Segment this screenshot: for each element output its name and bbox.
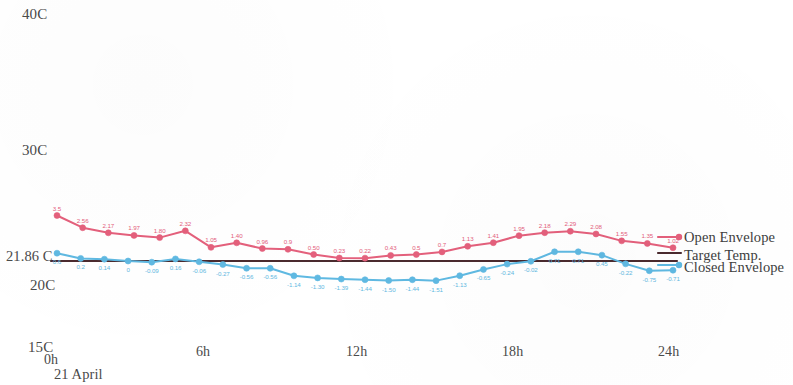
data-value-label: 2.08 [590,223,602,230]
data-value-label: 0.43 [385,244,397,251]
data-value-label: -1.50 [382,286,396,293]
data-value-label: 2.17 [102,222,114,229]
data-value-label: -0.02 [524,266,538,273]
x-axis-tick-6h: 6h [196,344,210,360]
data-value-label: -0.56 [240,273,254,280]
x-axis-tick-24h: 24h [658,344,679,360]
data-value-label: 0.23 [333,247,345,254]
data-value-label: -0.24 [500,269,514,276]
data-value-label: -0.06 [192,267,206,274]
chart-plot-area [0,0,793,385]
data-value-label: 0.71 [572,257,584,264]
data-value-label: -0.71 [666,275,680,282]
data-value-label: 2.32 [179,220,191,227]
temperature-chart: 3.52.562.171.971.802.321.051.400.960.90.… [0,0,793,385]
data-value-label: -1.44 [358,285,372,292]
data-value-label: 0.9 [284,238,292,245]
data-value-label: -0.75 [642,276,656,283]
data-value-label: 0.7 [438,241,446,248]
data-value-label: 2.18 [539,222,551,229]
data-value-label: 1.41 [487,232,499,239]
legend-label-closed-envelope: Closed Envelope [684,259,784,276]
data-value-label: 2.29 [564,220,576,227]
x-axis-date-label: 21 April [54,366,103,383]
data-value-label: 0.45 [596,260,608,267]
data-value-label: 0.22 [359,247,371,254]
data-value-label: 1.80 [154,227,166,234]
data-value-label: -0.65 [477,274,491,281]
data-value-label: -0.56 [263,273,277,280]
data-value-label: -1.51 [429,286,443,293]
data-value-label: -1.39 [334,284,348,291]
data-value-label: 0.96 [256,238,268,245]
data-value-label: 1.35 [641,232,653,239]
data-value-label: 0.16 [170,264,182,271]
data-value-label: 0.5 [412,244,420,251]
data-value-label: 0 [126,266,129,273]
data-value-label: 0.50 [308,244,320,251]
y-axis-tick-30c: 30C [22,142,47,159]
data-value-label: 0.71 [549,257,561,264]
legend-label-open-envelope: Open Envelope [684,229,775,246]
data-value-label: -1.13 [453,281,467,288]
data-value-label: 0.6 [53,258,61,265]
data-value-label: 1.13 [462,235,474,242]
data-value-label: 1.02 [667,237,679,244]
data-value-label: 3.5 [53,205,61,212]
data-value-label: -0.22 [619,269,633,276]
data-value-label: -1.44 [406,285,420,292]
data-value-label: 2.56 [77,217,89,224]
data-value-label: 1.05 [205,236,217,243]
y-axis-tick-40c: 40C [22,6,47,23]
data-value-label: 1.95 [513,225,525,232]
data-value-label: 0.14 [99,264,111,271]
data-value-label: 1.40 [231,232,243,239]
data-value-label: -1.30 [311,283,325,290]
x-axis-tick-18h: 18h [502,344,523,360]
data-value-label: 0.2 [77,263,85,270]
data-value-label: 1.55 [616,230,628,237]
data-value-label: -0.27 [216,270,230,277]
data-value-label: -1.14 [287,281,301,288]
y-axis-tick-target: 21.86 C [6,248,53,265]
data-value-label: 1.97 [128,224,140,231]
data-value-label: -0.09 [145,267,159,274]
y-axis-tick-20c: 20C [30,277,55,294]
x-axis-tick-12h: 12h [346,344,367,360]
